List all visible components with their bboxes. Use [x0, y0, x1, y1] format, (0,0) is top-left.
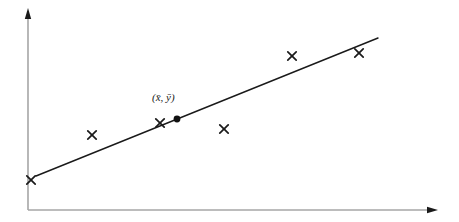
data-point-marker: [88, 131, 96, 139]
fit-line-group: [36, 38, 378, 176]
data-point-marker: [288, 52, 296, 60]
x-axis-arrowhead-icon: [427, 207, 438, 213]
mean-point-marker: [174, 116, 181, 123]
figure-container: (x̄, ȳ): [0, 0, 459, 222]
scatter-plot-canvas: [0, 0, 459, 222]
data-point-marker: [220, 125, 228, 133]
data-markers-group: [27, 49, 363, 184]
y-axis-arrowhead-icon: [25, 8, 31, 19]
line-of-best-fit: [36, 38, 378, 176]
data-point-marker: [355, 49, 363, 57]
mean-point-group: [174, 116, 181, 123]
mean-point-label: (x̄, ȳ): [152, 92, 175, 103]
